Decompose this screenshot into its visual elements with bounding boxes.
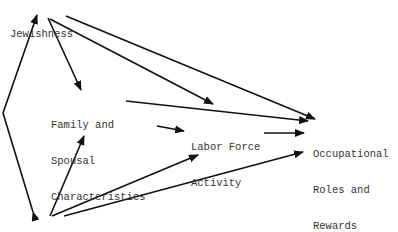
node-label: Spousal	[51, 155, 146, 167]
node-label: Labor Force	[191, 141, 260, 153]
node-label: Occupational	[313, 148, 389, 160]
node-jewishness: Jewishness	[10, 4, 73, 64]
edge-jewishness-labor	[50, 19, 213, 104]
node-label: Roles and	[313, 184, 389, 196]
edge-family-labor	[157, 126, 184, 131]
node-occupational-roles: Occupational Roles and Rewards	[313, 124, 389, 232]
node-label: Characteristics	[51, 191, 146, 203]
node-education: Education	[3, 220, 60, 232]
node-label: Jewishness	[10, 28, 73, 40]
node-labor-force: Labor Force Activity	[191, 117, 260, 213]
path-diagram: Jewishness Family and Spousal Characteri…	[0, 0, 398, 232]
node-label: Activity	[191, 177, 260, 189]
node-label: Family and	[51, 119, 146, 131]
node-label: Rewards	[313, 220, 389, 232]
node-family-characteristics: Family and Spousal Characteristics	[51, 95, 146, 227]
